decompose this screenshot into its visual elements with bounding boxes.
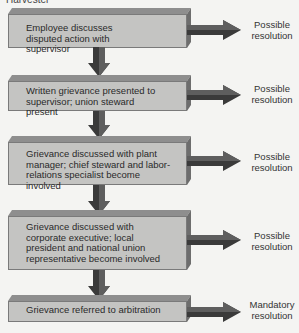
right-arrow-icon (187, 151, 241, 171)
outcome-label: Mandatory resolution (246, 300, 298, 321)
down-arrow-icon (88, 111, 110, 139)
outcome-label: Possible resolution (246, 231, 298, 252)
step-box-1: Employee discusses disputed action with … (8, 8, 187, 48)
step-text: Grievance discussed with corporate execu… (26, 222, 171, 264)
right-arrow-icon (187, 85, 241, 105)
right-arrow-icon (187, 302, 241, 322)
step-box-3: Grievance discussed with plant manager; … (8, 136, 187, 185)
outcome-label: Possible resolution (246, 84, 298, 105)
step-box-4: Grievance discussed with corporate execu… (8, 210, 187, 270)
outcome-label: Possible resolution (246, 20, 298, 41)
figure-caption: Harvester (6, 0, 49, 5)
right-arrow-icon (187, 20, 241, 40)
step-box-5: Grievance referred to arbitration (8, 295, 187, 322)
down-arrow-icon (88, 47, 110, 77)
right-arrow-icon (187, 230, 241, 250)
outcome-label: Possible resolution (246, 152, 298, 173)
step-box-2: Written grievance presented to superviso… (8, 75, 187, 111)
step-text: Grievance referred to arbitration (26, 305, 176, 316)
step-text: Employee discusses disputed action with … (26, 23, 146, 55)
